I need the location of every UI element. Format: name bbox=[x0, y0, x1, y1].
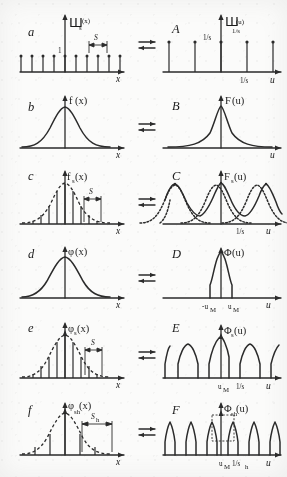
func-label-d-arg: (x) bbox=[75, 246, 88, 258]
row-letter-D: D bbox=[171, 247, 181, 261]
spacing-label-e: S bbox=[91, 338, 95, 347]
impulse-comb-a bbox=[21, 56, 120, 72]
func-label-A-arg: (u) bbox=[236, 18, 244, 26]
transform-arrow-e bbox=[139, 350, 155, 360]
x-axis-arrow-D bbox=[275, 295, 281, 300]
func-label-C-arg: (u) bbox=[234, 171, 247, 183]
func-label-A: Ш (u) 1/s bbox=[225, 14, 244, 34]
row-d: d φ (x) x D -u M u M bbox=[20, 246, 281, 313]
row-letter-e: e bbox=[28, 321, 34, 335]
spacing-bracket-f bbox=[82, 421, 112, 452]
func-label-d: φ (x) bbox=[68, 246, 88, 258]
spacing-bracket-e bbox=[85, 347, 102, 375]
row-b: b f (x) x B F (u) u bbox=[20, 95, 281, 160]
tick-uM-F: u M bbox=[219, 460, 230, 470]
x-tick-label-C: 1/s bbox=[236, 228, 245, 236]
y-axis-arrow-E bbox=[218, 324, 223, 330]
axis-label-c-x: x bbox=[115, 226, 121, 236]
row-letter-B: B bbox=[172, 99, 180, 113]
func-label-E: Φ s (u) bbox=[224, 325, 247, 338]
spacing-label-c: S bbox=[89, 187, 93, 196]
center-peak-arrow-E bbox=[219, 333, 224, 339]
row-letter-C: C bbox=[172, 169, 181, 183]
spacing-label-a: S bbox=[94, 33, 98, 42]
row-letter-a: a bbox=[28, 25, 34, 39]
spacing-label-f-main: S bbox=[91, 412, 95, 421]
tick-label-a-1: 1 bbox=[58, 47, 62, 55]
tick-sub-E-uM: M bbox=[223, 386, 229, 393]
tick-neg-uM-D: -u M bbox=[202, 303, 216, 313]
spacing-label-f: S h bbox=[91, 412, 100, 423]
center-impulse-arrow-e bbox=[63, 330, 68, 336]
axis-label-C-u: u bbox=[266, 226, 271, 236]
transform-pairs-figure: a 1 S bbox=[0, 0, 287, 477]
bell-curve-b bbox=[22, 107, 110, 147]
envelope-e bbox=[22, 335, 110, 377]
row-a: a 1 S bbox=[20, 14, 282, 85]
envelope-c bbox=[22, 183, 110, 223]
row-letter-f: f bbox=[28, 403, 33, 417]
row-letter-b: b bbox=[28, 100, 34, 114]
axis-label-A-u: u bbox=[270, 75, 275, 85]
func-label-B: F (u) bbox=[225, 95, 245, 107]
transform-arrow-f bbox=[139, 427, 155, 437]
func-label-C: F s (u) bbox=[224, 171, 247, 184]
peak-dot-D bbox=[220, 251, 223, 254]
tick-sub-D-pos: M bbox=[233, 306, 239, 313]
axis-label-a-x: x bbox=[115, 74, 121, 84]
axis-label-D-u: u bbox=[266, 300, 271, 310]
sampled-impulses-f bbox=[35, 410, 95, 455]
row-letter-A: A bbox=[171, 22, 180, 36]
x-axis-arrow-A bbox=[275, 69, 281, 74]
center-impulse-arrow-f bbox=[63, 408, 68, 414]
y-axis-arrow-d bbox=[62, 246, 67, 252]
func-label-B-arg: (u) bbox=[232, 95, 245, 107]
row-letter-c: c bbox=[28, 169, 34, 183]
transform-arrow-b bbox=[139, 122, 155, 132]
func-label-F-arg: (u) bbox=[236, 403, 249, 415]
row-letter-F: F bbox=[171, 403, 180, 417]
y-axis-arrow-C bbox=[218, 170, 223, 176]
bell-curve-d bbox=[22, 257, 110, 297]
tick-sub-F-1sh: h bbox=[245, 463, 249, 470]
transform-arrow-d bbox=[139, 273, 155, 283]
func-label-e: φ s (x) bbox=[68, 323, 90, 336]
axis-label-e-x: x bbox=[115, 380, 121, 390]
row-c: c S f s (x) x bbox=[20, 169, 287, 236]
func-label-d-main: φ bbox=[68, 246, 74, 257]
func-label-b-arg: (x) bbox=[75, 95, 88, 107]
tick-label-F-uM: u bbox=[219, 460, 223, 468]
func-label-f: φ sh (x) bbox=[68, 400, 92, 415]
axis-label-E-u: u bbox=[266, 381, 271, 391]
tick-label-F-1sh: 1/s bbox=[232, 460, 241, 468]
func-label-c-arg: (x) bbox=[75, 171, 88, 183]
transform-arrow-c bbox=[139, 197, 155, 207]
tick-1sh-F: 1/s h bbox=[232, 460, 249, 470]
y-axis-arrow-A bbox=[218, 14, 223, 20]
y-tick-label-A: 1/s bbox=[203, 34, 212, 42]
y-axis-arrow-a bbox=[62, 14, 67, 20]
tick-label-E-uM: u bbox=[218, 383, 222, 391]
spacing-bracket-a bbox=[89, 41, 107, 53]
func-label-D: Φ (u) bbox=[224, 247, 245, 259]
bell-curve-B bbox=[168, 106, 272, 147]
tick-sub-D-neg: M bbox=[210, 306, 216, 313]
y-axis-arrow-F bbox=[218, 402, 223, 408]
func-label-a: Ш s (x) bbox=[69, 15, 90, 31]
func-label-A-sub: 1/s bbox=[232, 27, 240, 34]
func-label-a-arg: (x) bbox=[82, 17, 90, 25]
impulse-comb-A bbox=[169, 42, 273, 72]
tick-label-D-pos: u bbox=[228, 303, 232, 311]
transform-arrow-a bbox=[139, 40, 155, 50]
row-f: f S h φ sh (x) x bbox=[20, 400, 281, 470]
func-label-D-arg: (u) bbox=[232, 247, 245, 259]
x-axis-arrow-E bbox=[275, 375, 281, 380]
y-axis-arrow-e bbox=[62, 322, 67, 328]
func-label-a-sub: s bbox=[79, 24, 82, 31]
tick-label-E-1s: 1/s bbox=[236, 383, 245, 391]
spacing-bracket-c bbox=[84, 196, 101, 222]
y-axis-arrow-b bbox=[62, 95, 67, 101]
func-label-b-main: f bbox=[69, 95, 73, 106]
row-letter-d: d bbox=[28, 247, 35, 261]
row-e: e S φ s (x) x bbox=[20, 321, 281, 393]
